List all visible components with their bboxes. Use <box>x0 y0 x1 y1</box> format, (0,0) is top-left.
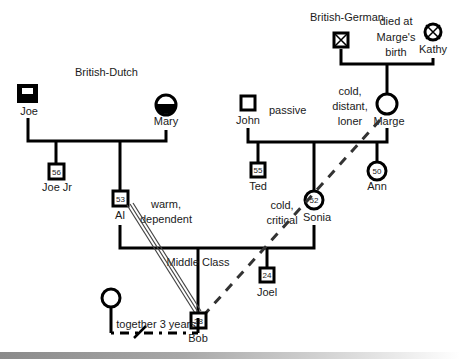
marriage-line-joe-mary <box>28 118 166 141</box>
marge-trait-line-1: cold, <box>338 85 361 97</box>
joe-jr-name: Joe Jr <box>42 181 72 193</box>
ted-name: Ted <box>249 180 267 192</box>
joel-name: Joel <box>257 286 277 298</box>
marge-trait-line-2: distant, <box>332 100 367 112</box>
marge-trait-line-3: loner <box>338 115 363 127</box>
kathy-note-line-1: died at <box>379 15 412 27</box>
family-origin-label-left: British-Dutch <box>75 66 138 78</box>
kathy-name: Kathy <box>419 43 448 55</box>
family-origin-label-right: British-German <box>310 11 384 23</box>
john-trait: passive <box>269 104 306 116</box>
marge-symbol <box>377 94 397 114</box>
british-german-father-symbol <box>334 33 348 47</box>
mary-name: Mary <box>154 115 179 127</box>
kathy-symbol <box>425 24 441 40</box>
joel-age: 24 <box>263 271 272 280</box>
kathy-note-line-2: Marge's <box>377 31 416 43</box>
john-name: John <box>236 114 260 126</box>
joe-symbol <box>18 85 37 102</box>
john-symbol <box>241 96 255 110</box>
al-trait-line-1: warm, <box>150 198 181 210</box>
sonia-trait-line-2: critical <box>266 214 297 226</box>
relationship-duration-label: together 3 years <box>116 318 196 330</box>
mary-symbol <box>156 95 176 115</box>
al-trait-line-2: dependent <box>140 213 192 225</box>
al-age: 53 <box>116 195 125 204</box>
joe-name: Joe <box>20 105 38 117</box>
ann-name: Ann <box>367 180 387 192</box>
genogram-diagram: British-Dutch British-German died at Mar… <box>0 0 460 359</box>
class-label: Middle Class <box>167 256 230 268</box>
ann-age: 50 <box>373 167 382 176</box>
joe-jr-age: 56 <box>52 168 61 177</box>
kathy-note-line-3: birth <box>385 46 406 58</box>
sonia-name: Sonia <box>303 211 332 223</box>
al-name: Al <box>115 209 125 221</box>
bottom-gradient-band <box>0 352 460 359</box>
sonia-trait-line-1: cold, <box>270 199 293 211</box>
ted-age: 55 <box>254 166 263 175</box>
partner-symbol <box>102 289 120 307</box>
